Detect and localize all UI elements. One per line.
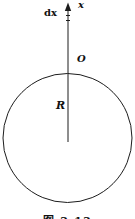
figure-drawing — [0, 0, 135, 219]
dx-element-label: dx — [44, 8, 57, 18]
origin-point-label: O — [77, 54, 86, 64]
radius-label: R — [56, 100, 65, 111]
x-axis-label: x — [78, 0, 84, 10]
physics-figure: x dx O R 图 2-13 — [0, 0, 135, 219]
axis-arrowhead-icon — [65, 3, 71, 12]
figure-caption: 图 2-13 — [0, 212, 135, 219]
